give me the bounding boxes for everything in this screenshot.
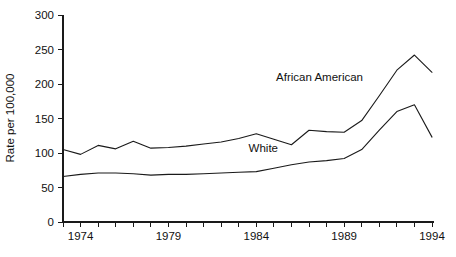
y-tick-label-300: 300 <box>35 9 54 21</box>
y-axis-tick-labels: 050100150200250300 <box>35 9 54 228</box>
y-tick-label-100: 100 <box>35 147 54 159</box>
x-tick-label-1974: 1974 <box>68 230 94 242</box>
y-axis-title: Rate per 100,000 <box>4 74 16 163</box>
line-chart: 050100150200250300 19741979198419891994 … <box>0 0 456 257</box>
x-axis-tick-labels: 19741979198419891994 <box>68 230 446 242</box>
series-annotations: African AmericanWhite <box>249 71 363 155</box>
y-tick-label-200: 200 <box>35 78 54 90</box>
annotation-white: White <box>249 142 278 154</box>
y-tick-label-50: 50 <box>41 182 54 194</box>
y-axis-ticks <box>58 15 63 222</box>
series-line-african-american <box>63 55 432 154</box>
figure-container: 050100150200250300 19741979198419891994 … <box>0 0 456 257</box>
x-tick-label-1979: 1979 <box>156 230 182 242</box>
x-axis-ticks <box>63 222 432 227</box>
figure-caption-strip <box>0 250 456 257</box>
x-tick-label-1984: 1984 <box>243 230 269 242</box>
y-tick-label-0: 0 <box>48 216 54 228</box>
y-tick-label-250: 250 <box>35 44 54 56</box>
x-tick-label-1989: 1989 <box>331 230 357 242</box>
annotation-african-american: African American <box>276 71 363 83</box>
chart-series-lines <box>63 55 432 176</box>
x-tick-label-1994: 1994 <box>419 230 445 242</box>
series-line-white <box>63 105 432 177</box>
chart-axes <box>63 15 434 222</box>
y-tick-label-150: 150 <box>35 113 54 125</box>
